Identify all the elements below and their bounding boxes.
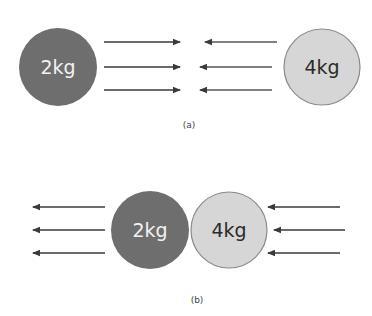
velocity-arrows-right	[104, 42, 180, 90]
collision-diagram: 2kg 4kg (a) 2kg 4k	[0, 0, 372, 316]
mass-4kg-b: 4kg	[191, 192, 267, 268]
panel-caption: (b)	[191, 295, 204, 305]
velocity-arrows-left	[200, 42, 277, 90]
mass-4kg-a: 4kg	[284, 29, 360, 105]
panel-a: 2kg 4kg (a)	[19, 28, 360, 130]
panel-b: 2kg 4kg (b)	[33, 191, 345, 305]
force-arrows-left-outer	[33, 207, 105, 253]
mass-label: 2kg	[132, 219, 167, 241]
mass-label: 2kg	[40, 56, 75, 78]
mass-2kg-a: 2kg	[19, 28, 97, 106]
mass-2kg-b: 2kg	[111, 191, 189, 269]
force-arrows-left-inner	[268, 207, 345, 253]
mass-label: 4kg	[304, 56, 339, 78]
panel-caption: (a)	[183, 120, 196, 130]
mass-label: 4kg	[211, 219, 246, 241]
